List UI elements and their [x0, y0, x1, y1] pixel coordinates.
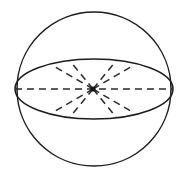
sphere-diagram-figure: [0, 0, 188, 177]
center-point: [90, 86, 95, 91]
sphere-diagram-canvas: [0, 0, 188, 177]
